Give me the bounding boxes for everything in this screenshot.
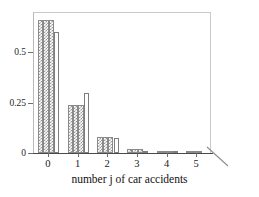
y-tick-mark [28, 153, 33, 154]
bar [84, 93, 89, 153]
bar-group [157, 13, 178, 153]
y-tick-mark [28, 52, 33, 53]
bar-group [186, 13, 207, 153]
bar-group [38, 13, 59, 153]
bar-group [127, 13, 148, 153]
bar-group [68, 13, 89, 153]
plot-frame [33, 12, 211, 154]
x-tick-label: 1 [67, 157, 89, 170]
x-tick-label: 5 [185, 157, 207, 170]
y-tick-label: 0 [21, 148, 26, 158]
x-tick-label: 0 [37, 157, 59, 170]
x-axis-label: number j of car accidents [0, 172, 259, 186]
bar-group [97, 13, 118, 153]
y-tick-label: 0.5 [14, 47, 26, 57]
y-tick-mark [28, 103, 33, 104]
bar [114, 138, 119, 153]
x-axis-line [33, 153, 213, 154]
x-tick-label: 3 [126, 157, 148, 170]
x-tick-label: 2 [96, 157, 118, 170]
chart-figure: 00.250.5012345 number j of car accidents [0, 0, 259, 197]
x-tick-label: 4 [156, 157, 178, 170]
y-tick-label: 0.25 [9, 98, 26, 108]
bar [54, 32, 59, 153]
plot-area [34, 13, 210, 153]
